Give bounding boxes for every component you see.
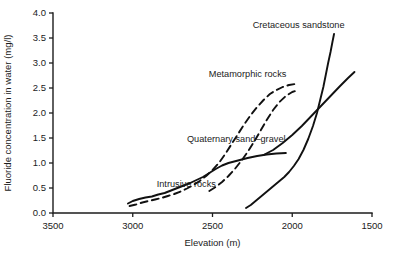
y-axis-tick-label: 2.0	[33, 107, 46, 118]
x-axis-tick-label: 2000	[282, 220, 303, 231]
y-axis-title: Fluoride concentration in water (mg/l)	[2, 35, 13, 192]
y-axis-tick-label: 1.5	[33, 132, 46, 143]
x-axis-tick-label: 3000	[122, 220, 143, 231]
figure-container: 0.00.51.01.52.02.53.03.54.03500300025002…	[0, 0, 395, 267]
y-axis-tick-label: 4.0	[33, 7, 46, 18]
y-axis-tick-label: 0.5	[33, 182, 46, 193]
x-axis-tick-label: 1500	[361, 220, 382, 231]
series-annotations: Intrusive rocksQuaternary sand–gravelMet…	[157, 20, 345, 189]
series-label-0: Intrusive rocks	[157, 179, 217, 189]
fluoride-elevation-chart: 0.00.51.01.52.02.53.03.54.03500300025002…	[0, 0, 395, 267]
figure-caption	[0, 260, 395, 267]
x-axis-tick-label: 2500	[202, 220, 223, 231]
y-axis-tick-label: 3.5	[33, 32, 46, 43]
y-axis-tick-label: 3.0	[33, 57, 46, 68]
series-curve-4	[246, 34, 334, 208]
axes: 0.00.51.01.52.02.53.03.54.03500300025002…	[33, 7, 383, 231]
series-label-4: Cretaceous sandstone	[253, 20, 345, 30]
y-axis-tick-label: 2.5	[33, 82, 46, 93]
series-label-1: Quaternary sand–gravel	[187, 134, 286, 144]
series-label-2: Metamorphic rocks	[209, 69, 287, 79]
y-axis-tick-label: 0.0	[33, 207, 46, 218]
x-axis-title: Elevation (m)	[185, 237, 241, 248]
y-axis-tick-label: 1.0	[33, 157, 46, 168]
x-axis-tick-label: 3500	[42, 220, 63, 231]
